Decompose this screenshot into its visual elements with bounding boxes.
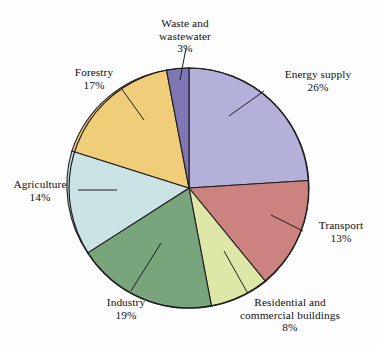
slice-label-line-1: Waste and [133, 17, 237, 30]
slice-label-line-1: Industry [88, 296, 164, 309]
slice-label-energy-supply: Energy supply 26% [262, 68, 374, 93]
pie-chart-figure: Waste and wastewater 3% Energy supply 26… [0, 0, 378, 346]
slice-label-agriculture: Agriculture 14% [3, 178, 77, 203]
slice-label-residential-commercial-buildings: Residential and commercial buildings 8% [218, 296, 362, 334]
slice-label-line-1: Forestry [60, 66, 128, 79]
slice-label-line-1: Agriculture [3, 178, 77, 191]
slice-label-forestry: Forestry 17% [60, 66, 128, 91]
slice-label-line-1: Energy supply [262, 68, 374, 81]
slice-label-percent: 14% [3, 191, 77, 204]
slice-label-line-1: Transport [305, 219, 377, 232]
slice-label-line-2: wastewater [133, 30, 237, 43]
slice-label-line-2: commercial buildings [218, 309, 362, 322]
slice-label-percent: 17% [60, 79, 128, 92]
slice-label-percent: 3% [133, 42, 237, 55]
slice-label-industry: Industry 19% [88, 296, 164, 321]
slice-label-percent: 13% [305, 232, 377, 245]
slice-label-percent: 8% [218, 321, 362, 334]
slice-label-waste-and-wastewater: Waste and wastewater 3% [133, 17, 237, 55]
slice-label-percent: 26% [262, 81, 374, 94]
slice-label-transport: Transport 13% [305, 219, 377, 244]
slice-label-line-1: Residential and [218, 296, 362, 309]
slice-label-percent: 19% [88, 309, 164, 322]
